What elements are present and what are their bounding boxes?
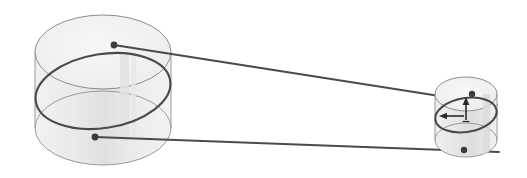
lower-left-point [92, 134, 99, 141]
upper-right-point [469, 91, 475, 97]
large-cylinder-top-ellipse [35, 15, 171, 89]
large-cylinder-group [30, 15, 176, 165]
lower-right-point [461, 147, 467, 153]
upper-left-point [111, 42, 118, 49]
figure-root: Two shaded cylinders joined by a pair of… [0, 0, 527, 178]
large-cylinder-shading [120, 52, 136, 142]
cylinder-projection-diagram [0, 0, 527, 178]
